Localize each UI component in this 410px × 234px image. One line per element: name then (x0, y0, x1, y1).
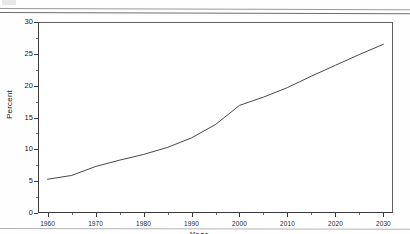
y-tick-label: 0 (3, 209, 33, 217)
x-tick-mark (239, 213, 240, 217)
x-tick-mark (335, 213, 336, 217)
x-tick-minor (311, 213, 312, 215)
x-axis-title-text: Year (190, 230, 208, 234)
x-tick-minor (216, 213, 217, 215)
x-tick-mark (48, 213, 49, 217)
x-tick-minor (359, 213, 360, 215)
x-tick-mark (192, 213, 193, 217)
x-tick-minor (168, 213, 169, 215)
x-tick-mark (287, 213, 288, 217)
line-chart-figure: 051015202530 Percent 1960197019801990200… (0, 14, 410, 234)
x-tick-mark (144, 213, 145, 217)
y-tick-mark (34, 213, 38, 214)
y-tick-label: 25 (3, 50, 33, 58)
y-tick-label: 30 (3, 18, 33, 26)
x-tick-label: 2000 (222, 220, 256, 228)
page-canvas: 051015202530 Percent 1960197019801990200… (0, 0, 410, 234)
x-tick-minor (263, 213, 264, 215)
x-tick-label: 2020 (318, 220, 352, 228)
scan-artifact-smudge (2, 0, 16, 5)
x-tick-mark (96, 213, 97, 217)
x-axis-title: Year (0, 230, 410, 234)
x-tick-label: 2030 (366, 220, 400, 228)
x-tick-minor (120, 213, 121, 215)
series-layer (38, 22, 393, 213)
x-tick-label: 1980 (127, 220, 161, 228)
series-line-percent (48, 44, 384, 179)
page-rule-top-upper (0, 8, 410, 10)
x-tick-minor (72, 213, 73, 215)
x-tick-mark (383, 213, 384, 217)
x-tick-label: 2010 (270, 220, 304, 228)
y-axis-title: Percent (5, 83, 14, 127)
x-tick-label: 1970 (79, 220, 113, 228)
x-tick-label: 1960 (31, 220, 65, 228)
x-tick-label: 1990 (175, 220, 209, 228)
y-tick-label: 5 (3, 177, 33, 185)
y-tick-label: 10 (3, 145, 33, 153)
